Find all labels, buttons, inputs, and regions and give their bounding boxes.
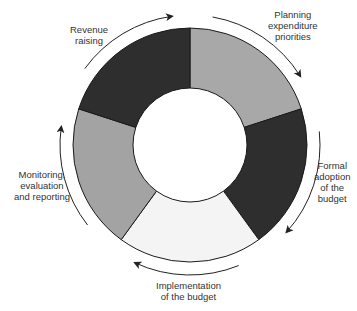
label-implementation: Implementation of the budget [156,280,221,302]
label-formal-adoption: Formal adoption of the budget [314,160,350,204]
budget-cycle-diagram [0,0,357,311]
label-revenue: Revenue raising [70,24,108,46]
label-planning: Planning expenditure priorities [268,9,318,42]
donut-ring [73,28,307,262]
arrow-icon [135,263,239,275]
label-monitoring: Monitoring, evaluation and reporting [14,169,70,202]
slice-0 [190,28,301,127]
